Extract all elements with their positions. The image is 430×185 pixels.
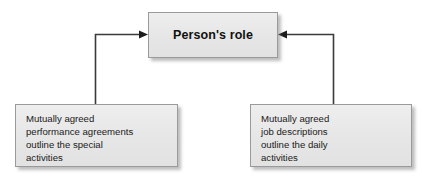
arrowhead-left-to-role — [139, 30, 148, 38]
left-node-line-1: Mutually agreed — [26, 112, 177, 125]
node-persons-role-label: Person's role — [173, 28, 253, 42]
connector-left-path — [96, 35, 142, 105]
right-node-line-1: Mutually agreed — [261, 112, 411, 125]
left-node-line-4: activities — [26, 151, 177, 164]
right-node-line-2: job descriptions — [261, 125, 411, 138]
node-performance-agreements[interactable]: Mutually agreed performance agreements o… — [15, 104, 178, 167]
left-node-line-2: performance agreements — [26, 125, 177, 138]
node-persons-role[interactable]: Person's role — [148, 12, 278, 58]
arrowhead-right-to-role — [278, 30, 287, 38]
connector-right-path — [285, 35, 334, 105]
node-job-descriptions[interactable]: Mutually agreed job descriptions outline… — [250, 104, 412, 167]
right-node-line-3: outline the daily — [261, 138, 411, 151]
diagram-canvas: Person's role Mutually agreed performanc… — [0, 0, 430, 185]
left-node-line-3: outline the special — [26, 138, 177, 151]
right-node-line-4: activities — [261, 151, 411, 164]
connector-right-to-role — [278, 30, 334, 104]
connector-left-to-role — [96, 30, 149, 104]
